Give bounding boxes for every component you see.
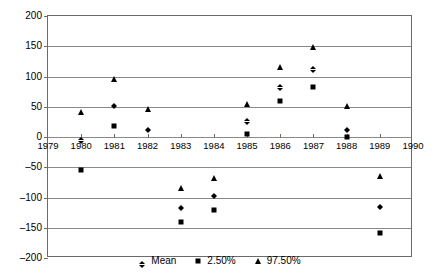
data-point xyxy=(377,201,383,207)
chart-legend: Mean2.50%97.50% xyxy=(0,256,439,266)
triangle-marker-icon xyxy=(254,257,262,265)
x-tick-mark xyxy=(181,134,182,138)
data-point xyxy=(78,134,84,140)
x-tick-mark xyxy=(280,134,281,138)
x-axis-label: 1982 xyxy=(137,141,158,151)
x-tick-mark xyxy=(313,134,314,138)
data-point xyxy=(277,81,283,87)
y-axis-label: 200 xyxy=(25,11,42,21)
x-tick-mark xyxy=(214,134,215,138)
data-point xyxy=(78,109,84,115)
y-tick-mark xyxy=(44,16,48,17)
data-point xyxy=(178,202,184,208)
y-tick-mark xyxy=(44,137,48,138)
data-point xyxy=(79,168,84,173)
data-point xyxy=(311,85,316,90)
data-point xyxy=(111,76,117,82)
data-point xyxy=(377,173,383,179)
x-axis-label: 1986 xyxy=(270,141,291,151)
gridline xyxy=(48,228,411,229)
y-axis-label: –150 xyxy=(20,223,42,233)
data-point xyxy=(344,103,350,109)
data-point xyxy=(211,175,217,181)
y-axis-label: 150 xyxy=(25,41,42,51)
gridline xyxy=(48,137,411,138)
data-point xyxy=(112,123,117,128)
gridline xyxy=(48,46,411,47)
x-axis-label: 1985 xyxy=(237,141,258,151)
data-point xyxy=(277,64,283,70)
data-point xyxy=(145,124,151,130)
y-tick-mark xyxy=(44,198,48,199)
legend-item-square: 2.50% xyxy=(194,256,235,266)
data-point xyxy=(244,101,250,107)
square-marker-icon xyxy=(194,257,202,265)
data-point xyxy=(111,100,117,106)
data-point xyxy=(178,219,183,224)
y-axis-label: –50 xyxy=(25,162,42,172)
legend-label: Mean xyxy=(151,256,176,266)
gridline xyxy=(48,198,411,199)
legend-label: 2.50% xyxy=(207,256,235,266)
data-point xyxy=(377,230,382,235)
gridline xyxy=(48,107,411,108)
data-point xyxy=(278,99,283,104)
y-tick-mark xyxy=(44,77,48,78)
y-axis-label: 50 xyxy=(31,102,42,112)
data-point xyxy=(211,190,217,196)
data-point xyxy=(310,44,316,50)
plot-area: 200150100500–50–100–150–200 197919801981… xyxy=(47,15,412,257)
x-axis-label: 1987 xyxy=(303,141,324,151)
y-tick-mark xyxy=(44,167,48,168)
data-point xyxy=(344,124,350,130)
data-point xyxy=(344,135,349,140)
data-point xyxy=(245,131,250,136)
x-axis-label: 1983 xyxy=(170,141,191,151)
data-point xyxy=(178,185,184,191)
y-tick-mark xyxy=(44,228,48,229)
data-point xyxy=(310,63,316,69)
legend-item-triangle: 97.50% xyxy=(254,256,301,266)
gridline xyxy=(48,167,411,168)
y-tick-mark xyxy=(44,46,48,47)
y-tick-mark xyxy=(44,107,48,108)
scatter-chart: 200150100500–50–100–150–200 197919801981… xyxy=(0,0,439,279)
x-axis-label: 1990 xyxy=(402,141,423,151)
gridline xyxy=(48,77,411,78)
x-axis-label: 1984 xyxy=(203,141,224,151)
data-point xyxy=(211,207,216,212)
legend-label: 97.50% xyxy=(267,256,301,266)
y-axis-label: –100 xyxy=(20,193,42,203)
data-point xyxy=(145,106,151,112)
x-axis-label: 1988 xyxy=(336,141,357,151)
x-tick-mark xyxy=(114,134,115,138)
legend-item-diamond: Mean xyxy=(138,256,176,266)
x-tick-mark xyxy=(380,134,381,138)
x-axis-label: 1981 xyxy=(104,141,125,151)
x-axis-label: 1989 xyxy=(369,141,390,151)
x-axis-label: 1979 xyxy=(37,141,58,151)
diamond-marker-icon xyxy=(138,257,146,265)
y-axis-label: 100 xyxy=(25,72,42,82)
data-point xyxy=(244,115,250,121)
